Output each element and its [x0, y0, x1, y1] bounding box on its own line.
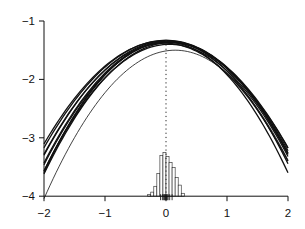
y-tick-label: −4 [22, 190, 36, 202]
x-tick-label: 1 [224, 207, 230, 219]
histogram-bar [160, 155, 163, 196]
histogram-bar [169, 162, 172, 196]
x-tick-label: 2 [285, 207, 291, 219]
y-tick-label: −1 [22, 15, 35, 27]
y-axis-ticks: −1−2−3−4 [22, 15, 44, 202]
x-tick-label: −1 [98, 207, 111, 219]
y-tick-label: −2 [22, 73, 35, 85]
histogram-bar [154, 186, 157, 196]
parabola-fits-chart: −2−1012 −1−2−3−4 [0, 0, 305, 229]
histogram-bar [172, 168, 175, 197]
histogram-bar [178, 185, 181, 196]
histogram-bar [157, 173, 160, 196]
histogram-bar [151, 192, 154, 196]
y-tick-label: −3 [22, 132, 35, 144]
histogram-bar [175, 178, 178, 197]
x-tick-label: −2 [37, 207, 50, 219]
x-tick-label: 0 [163, 207, 169, 219]
